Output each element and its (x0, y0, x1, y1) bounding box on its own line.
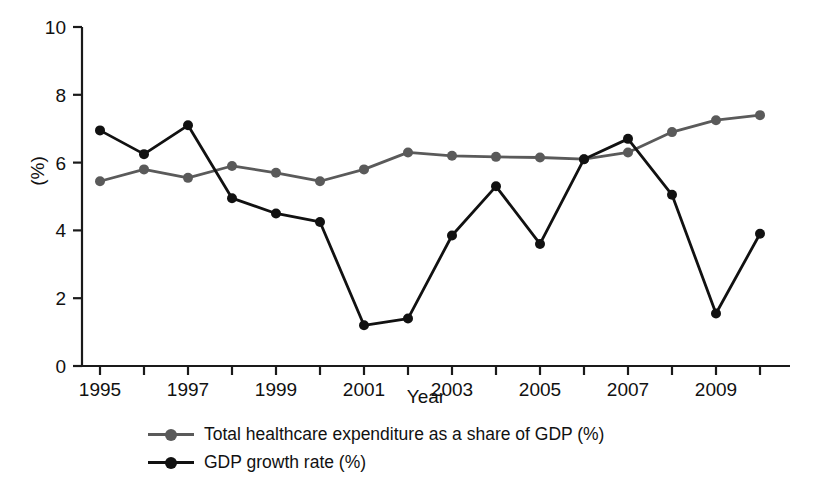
data-point (711, 308, 721, 318)
data-point (535, 153, 545, 163)
x-axis-tick-label: 2001 (343, 379, 385, 400)
data-point (403, 314, 413, 324)
data-point (95, 125, 105, 135)
data-point (183, 173, 193, 183)
legend-label-healthcare: Total healthcare expenditure as a share … (204, 424, 604, 445)
x-axis-tick-label: 1995 (79, 379, 121, 400)
data-point (227, 161, 237, 171)
data-point (491, 181, 501, 191)
y-axis-tick-label: 4 (55, 220, 66, 241)
legend-marker-gdp-icon (165, 457, 177, 469)
y-axis-tick-label: 0 (55, 356, 66, 377)
data-point (139, 164, 149, 174)
x-axis-tick-label: 1997 (167, 379, 209, 400)
data-point (183, 120, 193, 130)
data-point (755, 110, 765, 120)
x-axis-tick-label: 2003 (431, 379, 473, 400)
chart-figure: (%) 024681019951997199920012003200520072… (0, 0, 840, 503)
series-line-healthcare (100, 115, 760, 181)
data-point (491, 152, 501, 162)
data-point (271, 208, 281, 218)
y-axis-tick-label: 10 (45, 17, 66, 38)
y-axis-title: (%) (27, 141, 49, 201)
data-point (447, 230, 457, 240)
legend-swatch-gdp-icon (148, 455, 194, 469)
data-point (359, 164, 369, 174)
data-point (447, 151, 457, 161)
y-axis-tick-label: 8 (55, 85, 66, 106)
data-point (315, 176, 325, 186)
data-point (579, 154, 589, 164)
legend-item-gdp: GDP growth rate (%) (148, 448, 788, 476)
x-axis-tick-label: 2005 (519, 379, 561, 400)
legend-item-healthcare: Total healthcare expenditure as a share … (148, 420, 788, 448)
data-point (271, 168, 281, 178)
x-axis-tick-label: 2009 (695, 379, 737, 400)
legend-swatch-healthcare-icon (148, 427, 194, 441)
chart-legend: Total healthcare expenditure as a share … (148, 420, 788, 476)
data-point (623, 147, 633, 157)
data-point (667, 127, 677, 137)
data-point (359, 320, 369, 330)
legend-marker-healthcare-icon (165, 429, 177, 441)
data-point (711, 115, 721, 125)
y-axis-tick-label: 2 (55, 288, 66, 309)
x-axis-tick-label: 2007 (607, 379, 649, 400)
data-point (403, 147, 413, 157)
data-point (755, 229, 765, 239)
data-point (535, 239, 545, 249)
data-point (227, 193, 237, 203)
x-axis-tick-label: 1999 (255, 379, 297, 400)
data-point (623, 134, 633, 144)
legend-label-gdp: GDP growth rate (%) (204, 452, 366, 473)
y-axis-tick-label: 6 (55, 153, 66, 174)
data-point (139, 149, 149, 159)
data-point (667, 190, 677, 200)
data-point (315, 217, 325, 227)
data-point (95, 176, 105, 186)
